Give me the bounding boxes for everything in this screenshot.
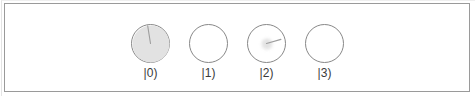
phase-needle-icon	[131, 24, 170, 63]
amplitude-disc-cell[interactable]: |0)	[131, 24, 170, 80]
amplitude-disc[interactable]	[131, 24, 170, 63]
panel-frame: |0)|1)|2)|3)	[4, 3, 470, 92]
state-display-panel: |0)|1)|2)|3)	[0, 0, 476, 102]
ket-state-label: |3)	[318, 66, 332, 80]
amplitude-disc[interactable]	[247, 24, 286, 63]
amplitude-disc-cell[interactable]: |3)	[305, 24, 344, 80]
amplitude-disc[interactable]	[189, 24, 228, 63]
amplitude-disc-cell[interactable]: |2)	[247, 24, 286, 80]
amplitude-disc-cell[interactable]: |1)	[189, 24, 228, 80]
amplitude-disc-row: |0)|1)|2)|3)	[131, 24, 371, 90]
ket-state-label: |1)	[202, 66, 216, 80]
ket-state-label: |0)	[144, 66, 158, 80]
ket-state-label: |2)	[260, 66, 274, 80]
disc-outline-circle-icon	[305, 24, 344, 63]
amplitude-disc[interactable]	[305, 24, 344, 63]
disc-outline-circle-icon	[189, 24, 228, 63]
phase-needle-icon	[247, 24, 286, 63]
